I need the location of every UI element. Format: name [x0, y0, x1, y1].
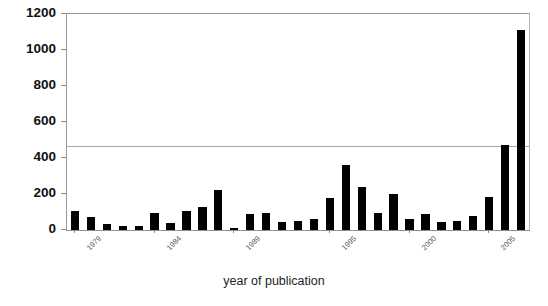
bar: [326, 198, 334, 230]
bar-chart-figure: 020040060080010001200 197919841989199520…: [0, 0, 548, 306]
bar-series: [67, 14, 529, 230]
bar: [453, 221, 461, 230]
bar: [262, 213, 270, 230]
x-axis-tick-label: 2000: [419, 234, 437, 252]
x-axis-tick-label: 1995: [340, 234, 358, 252]
bar: [485, 197, 493, 230]
bar: [421, 214, 429, 230]
plot-area: [66, 13, 530, 231]
x-axis-tick-mark: [409, 230, 410, 233]
x-axis-tick-mark: [488, 230, 489, 233]
x-axis-title: year of publication: [0, 274, 548, 288]
x-axis-tick-mark: [329, 230, 330, 233]
x-axis-tick-mark: [233, 230, 234, 233]
bar: [405, 219, 413, 230]
x-axis-tick-label: 1984: [164, 234, 182, 252]
y-axis-tick-label: 400: [2, 150, 56, 164]
bar: [182, 211, 190, 230]
y-axis-tick-label: 1200: [2, 6, 56, 20]
x-axis-tick-label: 2005: [499, 234, 517, 252]
bar: [214, 190, 222, 231]
bar: [374, 213, 382, 230]
x-axis-tick-mark: [74, 230, 75, 233]
x-axis-tick-mark: [154, 230, 155, 233]
x-axis: 197919841989199520002005: [66, 230, 528, 260]
bar: [389, 194, 397, 230]
bar: [87, 217, 95, 230]
bar: [342, 165, 350, 230]
bar: [150, 213, 158, 230]
y-axis-tick-label: 1000: [2, 42, 56, 56]
bar: [517, 30, 525, 230]
y-axis-tick-label: 600: [2, 114, 56, 128]
bar: [294, 221, 302, 230]
bar: [246, 214, 254, 230]
y-axis-tick-label: 0: [2, 222, 56, 236]
x-axis-tick-label: 1979: [85, 234, 103, 252]
x-axis-tick-label: 1989: [244, 234, 262, 252]
bar: [501, 145, 509, 231]
bar: [198, 207, 206, 230]
bar: [278, 222, 286, 230]
bar: [469, 216, 477, 230]
bar: [437, 222, 445, 230]
y-axis-tick-label: 200: [2, 186, 56, 200]
bar: [166, 223, 174, 230]
bar: [71, 211, 79, 230]
bar: [358, 187, 366, 230]
bar: [310, 219, 318, 230]
y-axis-tick-label: 800: [2, 78, 56, 92]
